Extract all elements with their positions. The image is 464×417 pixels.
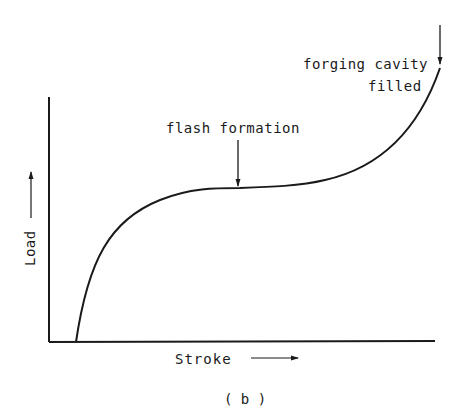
flash-formation-annotation: flash formation xyxy=(166,120,300,186)
flash-formation-label: flash formation xyxy=(166,120,300,136)
y-axis-label: Load xyxy=(22,230,38,266)
cavity-label-line2: filled xyxy=(368,78,422,94)
figure-caption: ( b ) xyxy=(224,391,266,407)
cavity-label-line1: forging cavity xyxy=(303,56,428,72)
x-axis-label: Stroke xyxy=(175,351,232,367)
x-axis xyxy=(49,341,435,342)
load-curve xyxy=(76,68,440,342)
load-stroke-diagram: flash formation forging cavity filled Lo… xyxy=(0,0,464,417)
x-axis-label-group: Stroke xyxy=(175,351,298,367)
y-axis-label-group: Load xyxy=(22,172,38,266)
cavity-filled-annotation: forging cavity filled xyxy=(303,25,440,94)
